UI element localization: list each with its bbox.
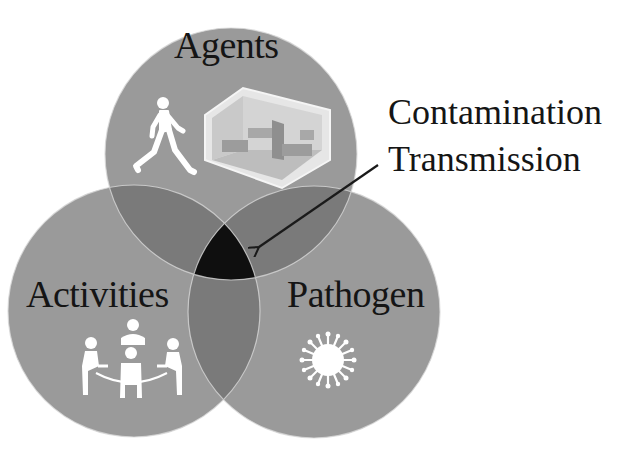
callout-transmission: Transmission [388, 141, 581, 177]
callout-contamination: Contamination [388, 94, 602, 130]
label-activities: Activities [26, 275, 169, 313]
venn-diagram: Agents Activities Pathogen Contamination… [0, 0, 643, 460]
venn-graphic [0, 0, 643, 460]
label-pathogen: Pathogen [287, 275, 424, 313]
label-agents: Agents [174, 26, 279, 64]
